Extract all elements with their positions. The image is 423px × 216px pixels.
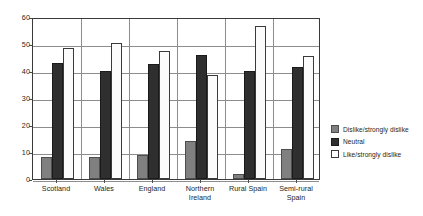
bar: [111, 43, 122, 179]
bar: [292, 67, 303, 179]
x-axis-label-3: Northern Ireland: [176, 185, 224, 202]
bar: [89, 157, 100, 179]
x-tick-mark-3: [200, 180, 201, 183]
bar-group: [33, 19, 81, 179]
bar: [159, 51, 170, 179]
bar-group: [273, 19, 321, 179]
chart-figure: 0102030405060 ScotlandWalesEnglandNorthe…: [0, 0, 423, 216]
bar: [233, 174, 244, 179]
y-tick-label-40: 40: [4, 68, 30, 75]
legend-label: Like/strongly dislike: [343, 151, 401, 158]
bar: [185, 141, 196, 179]
y-tick-label-20: 20: [4, 122, 30, 129]
legend-swatch-icon: [331, 150, 339, 158]
x-axis-label-5: Semi-rural Spain: [272, 185, 320, 202]
x-axis-label-0: Scotland: [32, 185, 80, 194]
bar-group: [129, 19, 177, 179]
legend-item: Dislike/strongly dislike: [331, 123, 421, 136]
bar-group: [81, 19, 129, 179]
legend-item: Neutral: [331, 136, 421, 149]
legend-label: Dislike/strongly dislike: [343, 126, 409, 133]
bar: [63, 48, 74, 179]
y-tick-label-50: 50: [4, 41, 30, 48]
gridline-0: [33, 181, 319, 182]
x-tick-mark-0: [56, 180, 57, 183]
legend-label: Neutral: [343, 138, 365, 145]
bar: [207, 75, 218, 179]
y-axis: 0102030405060: [0, 0, 30, 216]
bar: [100, 71, 111, 179]
bar-group: [177, 19, 225, 179]
bar: [137, 155, 148, 179]
bar: [41, 157, 52, 179]
x-axis-label-2: England: [128, 185, 176, 194]
x-axis-labels: ScotlandWalesEnglandNorthern IrelandRura…: [32, 185, 320, 213]
plot-area: [32, 18, 320, 180]
chart-legend: Dislike/strongly dislikeNeutralLike/stro…: [331, 123, 421, 161]
y-tick-mark-0: [29, 180, 32, 181]
bar: [303, 56, 314, 179]
bar: [281, 149, 292, 179]
legend-item: Like/strongly dislike: [331, 148, 421, 161]
y-tick-label-60: 60: [4, 14, 30, 21]
x-axis-label-4: Rural Spain: [224, 185, 272, 194]
x-axis-label-1: Wales: [80, 185, 128, 194]
y-tick-label-10: 10: [4, 149, 30, 156]
y-tick-label-30: 30: [4, 95, 30, 102]
x-tick-mark-1: [104, 180, 105, 183]
bar: [244, 71, 255, 179]
bar: [196, 55, 207, 179]
legend-swatch-icon: [331, 138, 339, 146]
x-tick-mark-2: [152, 180, 153, 183]
bar-group: [225, 19, 273, 179]
legend-swatch-icon: [331, 125, 339, 133]
y-tick-label-0: 0: [4, 176, 30, 183]
bar: [52, 63, 63, 179]
x-tick-mark-4: [248, 180, 249, 183]
bar: [255, 26, 266, 179]
bar: [148, 64, 159, 179]
x-tick-mark-5: [296, 180, 297, 183]
